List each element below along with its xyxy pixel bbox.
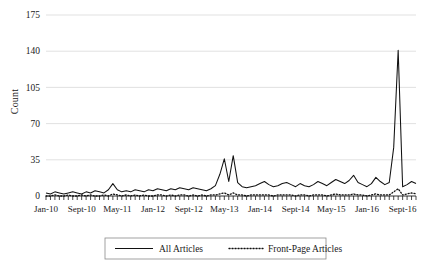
x-tick-label-6: Jan-14: [248, 204, 272, 214]
x-tick-label-1: Sept-10: [68, 204, 96, 214]
y-axis-label: Count: [9, 72, 20, 132]
y-tick-label-140: 140: [26, 46, 41, 56]
y-tick-label-105: 105: [26, 83, 41, 93]
legend-label-all-articles: All Articles: [159, 244, 203, 254]
x-tick-label-7: Sept-14: [282, 204, 310, 214]
x-tick-label-2: May-11: [103, 204, 131, 214]
y-tick-label-175: 175: [26, 10, 41, 20]
x-tick-label-9: Jan-16: [355, 204, 379, 214]
x-tick-label-0: Jan-10: [34, 204, 58, 214]
chart-figure: Count 03570105140175Jan-10Sept-10May-11J…: [0, 0, 429, 266]
y-tick-label-35: 35: [31, 155, 41, 165]
y-tick-label-70: 70: [31, 119, 41, 129]
y-tick-label-0: 0: [35, 191, 40, 201]
x-tick-label-10: Sept-16: [389, 204, 417, 214]
series-line-all-articles: [46, 50, 416, 194]
x-tick-label-8: May-15: [317, 204, 346, 214]
x-tick-label-4: Sept-12: [175, 204, 203, 214]
x-tick-label-3: Jan-12: [141, 204, 165, 214]
x-tick-label-5: May-13: [210, 204, 239, 214]
legend-label-front-page-articles: Front-Page Articles: [268, 244, 342, 254]
line-chart-svg: 03570105140175Jan-10Sept-10May-11Jan-12S…: [0, 0, 429, 266]
